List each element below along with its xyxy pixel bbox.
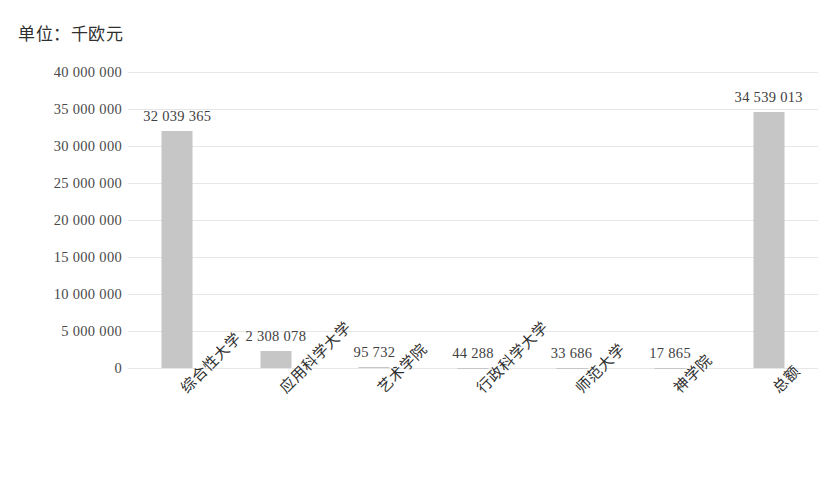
y-tick-label: 10 000 000 <box>12 286 122 303</box>
y-tick-label: 40 000 000 <box>12 64 122 81</box>
x-tick-slot: 综合性大学 <box>128 368 227 488</box>
x-tick-slot: 总额 <box>719 368 818 488</box>
chart-unit-title: 单位：千欧元 <box>18 20 123 45</box>
x-tick-slot: 应用科学大学 <box>227 368 326 488</box>
x-tick-slot: 神学院 <box>621 368 720 488</box>
y-tick-label: 20 000 000 <box>12 212 122 229</box>
bar-slot: 17 865 <box>621 72 720 368</box>
x-axis: 综合性大学应用科学大学艺术学院行政科学大学师范大学神学院总额 <box>128 368 818 488</box>
y-tick-label: 25 000 000 <box>12 175 122 192</box>
bar-slot: 32 039 365 <box>128 72 227 368</box>
bar[interactable] <box>162 131 193 368</box>
x-tick-slot: 师范大学 <box>522 368 621 488</box>
y-axis: 40 000 00035 000 00030 000 00025 000 000… <box>4 72 122 368</box>
y-tick-label: 35 000 000 <box>12 101 122 118</box>
bar-slot: 44 288 <box>424 72 523 368</box>
y-tick-label: 0 <box>12 360 122 377</box>
bar[interactable] <box>753 112 784 368</box>
bar-value-label: 32 039 365 <box>143 108 211 125</box>
bar[interactable] <box>260 351 291 368</box>
bar-value-label: 33 686 <box>551 345 593 362</box>
bar-value-label: 95 732 <box>354 344 396 361</box>
bar-value-label: 44 288 <box>452 345 494 362</box>
bar-slot: 34 539 013 <box>719 72 818 368</box>
bar-slot: 2 308 078 <box>227 72 326 368</box>
y-tick-label: 5 000 000 <box>12 323 122 340</box>
plot-area: 32 039 3652 308 07895 73244 28833 68617 … <box>128 72 818 368</box>
y-tick-label: 30 000 000 <box>12 138 122 155</box>
y-tick-label: 15 000 000 <box>12 249 122 266</box>
bar-chart: 单位：千欧元 40 000 00035 000 00030 000 00025 … <box>0 0 834 495</box>
x-tick-slot: 艺术学院 <box>325 368 424 488</box>
x-tick-slot: 行政科学大学 <box>424 368 523 488</box>
bar-value-label: 17 865 <box>649 345 691 362</box>
bar-value-label: 2 308 078 <box>245 328 306 345</box>
bar-value-label: 34 539 013 <box>735 89 803 106</box>
